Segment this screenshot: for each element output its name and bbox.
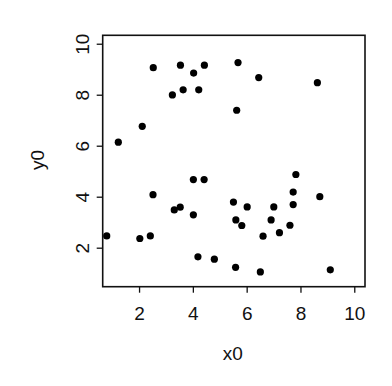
data-point — [316, 193, 323, 200]
data-point — [230, 198, 237, 205]
data-point — [177, 62, 184, 69]
data-point — [290, 189, 297, 196]
data-point — [257, 268, 264, 275]
y-axis-ticks: 246810 — [72, 34, 103, 254]
x-tick-label: 2 — [134, 303, 145, 324]
x-tick-label: 4 — [188, 303, 199, 324]
data-point — [103, 232, 110, 239]
data-point — [286, 222, 293, 229]
data-point — [292, 171, 299, 178]
y-tick-label: 6 — [72, 141, 93, 152]
data-point — [149, 191, 156, 198]
data-point — [150, 64, 157, 71]
data-point — [115, 139, 122, 146]
data-point — [180, 86, 187, 93]
y-tick-label: 8 — [72, 90, 93, 101]
data-point — [195, 86, 202, 93]
data-point — [270, 203, 277, 210]
x-tick-label: 10 — [344, 303, 365, 324]
data-points — [103, 59, 334, 276]
data-point — [190, 211, 197, 218]
x-tick-label: 8 — [296, 303, 307, 324]
data-point — [290, 201, 297, 208]
data-point — [233, 107, 240, 114]
y-tick-label: 10 — [72, 34, 93, 55]
data-point — [139, 123, 146, 130]
x-axis-label: x0 — [223, 343, 243, 364]
data-point — [259, 233, 266, 240]
scatter-chart: 246810 246810 x0 y0 — [0, 0, 392, 386]
plot-frame — [103, 35, 365, 286]
y-tick-label: 2 — [72, 243, 93, 254]
data-point — [201, 176, 208, 183]
data-point — [232, 264, 239, 271]
data-point — [276, 229, 283, 236]
data-point — [268, 216, 275, 223]
data-point — [190, 69, 197, 76]
data-point — [244, 203, 251, 210]
y-axis-label: y0 — [27, 150, 48, 170]
x-axis-ticks: 246810 — [134, 287, 365, 324]
data-point — [136, 235, 143, 242]
data-point — [147, 232, 154, 239]
data-point — [232, 216, 239, 223]
data-point — [201, 62, 208, 69]
data-point — [169, 91, 176, 98]
data-point — [194, 253, 201, 260]
data-point — [255, 74, 262, 81]
data-point — [238, 222, 245, 229]
x-tick-label: 6 — [242, 303, 253, 324]
y-tick-label: 4 — [72, 191, 93, 202]
data-point — [211, 256, 218, 263]
data-point — [234, 59, 241, 66]
data-point — [314, 79, 321, 86]
data-point — [190, 176, 197, 183]
data-point — [327, 266, 334, 273]
data-point — [177, 204, 184, 211]
